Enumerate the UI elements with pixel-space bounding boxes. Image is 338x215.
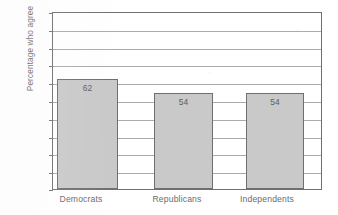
y-axis-tick-mark [49, 173, 53, 174]
y-axis-tick-mark [49, 31, 53, 32]
y-axis-tick-mark [49, 190, 53, 191]
x-axis-label-democrats: Democrats [26, 194, 136, 204]
x-axis-label-independents: Independents [212, 194, 322, 204]
y-axis-tick-mark [49, 13, 53, 14]
y-axis-tick-mark [49, 120, 53, 121]
gridline [53, 31, 321, 32]
y-axis-tick-mark [49, 102, 53, 103]
gridline [53, 49, 321, 50]
plot-area: 62 54 54 [52, 12, 322, 190]
y-axis-title: Percentage who agree [26, 0, 35, 134]
y-axis-tick-mark [49, 49, 53, 50]
y-axis-tick-mark [49, 155, 53, 156]
bar-value-label: 54 [155, 97, 212, 107]
bar-independents: 54 [246, 93, 304, 189]
bar-democrats: 62 [57, 79, 118, 189]
gridline [53, 66, 321, 67]
y-axis-tick-mark [49, 66, 53, 67]
y-axis-tick-mark [49, 84, 53, 85]
y-axis-tick-mark [49, 138, 53, 139]
bar-republicans: 54 [154, 93, 213, 189]
bar-value-label: 62 [58, 83, 117, 93]
bar-value-label: 54 [247, 97, 303, 107]
bar-chart: Percentage who agree 100 90 80 70 60 50 … [0, 0, 338, 215]
